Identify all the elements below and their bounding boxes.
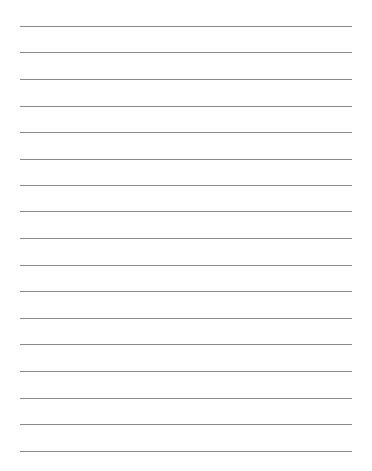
ruled-line — [20, 424, 352, 425]
ruled-line — [20, 265, 352, 266]
ruled-line — [20, 26, 352, 27]
ruled-line — [20, 451, 352, 452]
lined-paper-sheet — [0, 0, 372, 471]
ruled-line — [20, 211, 352, 212]
ruled-line — [20, 132, 352, 133]
ruled-line — [20, 79, 352, 80]
ruled-line — [20, 52, 352, 53]
ruled-line — [20, 238, 352, 239]
ruled-line — [20, 159, 352, 160]
ruled-line — [20, 398, 352, 399]
ruled-line — [20, 106, 352, 107]
ruled-line — [20, 291, 352, 292]
ruled-line — [20, 185, 352, 186]
ruled-line — [20, 318, 352, 319]
ruled-line — [20, 344, 352, 345]
ruled-line — [20, 371, 352, 372]
